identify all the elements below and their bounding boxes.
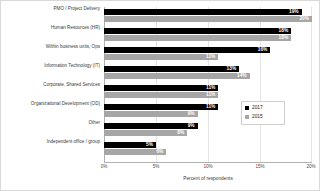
bar-2017: 18% [104,28,291,34]
x-tick-label: 0% [101,164,108,169]
category-label: Within business units, Ops [46,45,100,50]
legend-swatch-icon [245,115,249,119]
bar-value-2017: 18% [279,29,289,34]
bar-value-2015: 8% [177,131,184,136]
bar-2015: 6% [104,149,166,155]
bar-2017: 9% [104,123,198,129]
category-label: Information Technology (IT) [44,64,100,69]
plot-area: PMO / Project Delivery 19% 20% Human Res… [104,7,312,162]
gridline-20 [311,7,312,162]
legend-label: 2017 [252,106,263,111]
bar-value-2017: 9% [188,124,195,129]
category-label: Human Resources (HR) [51,26,100,31]
bar-2015: 8% [104,130,187,136]
bar-value-2017: 11% [206,86,215,91]
legend-swatch-icon [245,106,249,110]
bar-value-2015: 18% [279,36,289,41]
legend-item-2017: 2017 [245,106,281,111]
category-label: Corporate, Shared Services [43,83,100,88]
legend-item-2015: 2015 [245,115,281,120]
bar-2015: 11% [104,92,218,98]
bar-value-2017: 11% [206,105,215,110]
bar-value-2015: 6% [156,150,163,155]
category-label: Independent office / group [47,140,100,145]
category-label: PMO / Project Delivery [54,7,100,12]
chart-legend: 2017 2015 [241,101,285,125]
x-tick-label: 10% [203,164,212,169]
x-axis-title: Percent of respondents [104,176,312,181]
bar-value-2015: 11% [206,93,215,98]
category-label: Organizational Development (OD) [31,102,100,107]
bar-2017: 11% [104,104,218,110]
legend-label: 2015 [252,115,263,120]
bar-value-2015: 9% [188,112,195,117]
bar-2017: 5% [104,142,156,148]
bar-value-2017: 19% [289,10,299,15]
bar-2017: 19% [104,9,302,15]
bar-2017: 11% [104,85,218,91]
bar-value-2017: 13% [227,67,237,72]
bar-chart: PMO / Project Delivery 19% 20% Human Res… [0,0,320,191]
x-tick-label: 5% [153,164,160,169]
bar-value-2017: 16% [258,48,268,53]
x-tick-label: 15% [255,164,264,169]
bar-2015: 11% [104,54,218,60]
bar-value-2015: 11% [206,55,215,60]
bar-value-2015: 14% [237,74,247,79]
bar-2015: 9% [104,111,198,117]
bar-2017: 16% [104,47,270,53]
bar-2015: 18% [104,35,291,41]
x-axis-line [104,162,312,163]
category-label: Other [89,121,101,126]
bar-2015: 14% [104,73,250,79]
bar-value-2015: 20% [299,17,309,22]
bar-2015: 20% [104,16,312,22]
bar-value-2017: 5% [146,143,153,148]
bar-2017: 13% [104,66,239,72]
x-tick-label: 20% [306,164,315,169]
